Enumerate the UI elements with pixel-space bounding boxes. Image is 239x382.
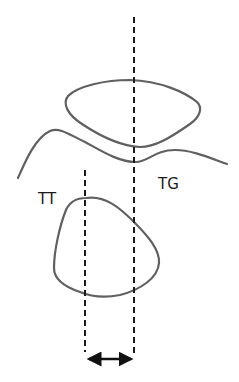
upper-contour [66,80,200,147]
tt-contour [54,198,159,297]
tg-label: TG [158,177,179,192]
diagram-drawing [0,0,239,382]
tt-tg-diagram: TG TT [0,0,239,382]
wavy-line [18,130,227,178]
tt-label: TT [38,192,56,207]
